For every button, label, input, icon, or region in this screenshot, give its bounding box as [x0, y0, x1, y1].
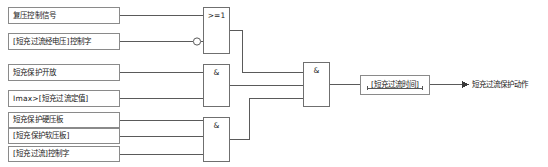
and-gate-current[interactable]: &	[203, 64, 230, 107]
input-box-soft-strap[interactable]: [短充保护软压板]	[8, 128, 120, 144]
timer-bar-icon	[367, 86, 423, 90]
or-gate-voltage[interactable]: >=1	[203, 7, 230, 54]
inverter-bubble-icon	[193, 38, 200, 45]
input-label: [短充保护软压板]	[13, 132, 70, 140]
input-box-overcurrent-voltage-ctrl-word[interactable]: [短充过流经电压]控制字	[8, 33, 120, 50]
input-label: [短充过流]控制字	[13, 150, 70, 158]
input-box-fuya-control-signal[interactable]: 复压控制信号	[8, 7, 120, 24]
input-label: 短充保护硬压板	[13, 116, 63, 124]
input-box-overcurrent-ctrl-word[interactable]: [短充过流]控制字	[8, 146, 120, 162]
input-box-imax-threshold[interactable]: Imax>[短充过流定值]	[8, 90, 120, 107]
wire-and-enable-to-final-and	[230, 99, 303, 140]
and-gate-final[interactable]: &	[303, 62, 330, 107]
input-label: [短充过流经电压]控制字	[13, 38, 91, 46]
gate-symbol: &	[314, 66, 320, 106]
and-gate-enable[interactable]: &	[203, 117, 230, 162]
input-label: Imax>[短充过流定值]	[13, 95, 88, 103]
gate-symbol: &	[214, 68, 220, 106]
input-label: 短充保护开放	[13, 69, 56, 77]
gate-symbol: >=1	[208, 11, 225, 53]
gate-symbol: &	[214, 121, 220, 161]
output-arrowhead	[462, 81, 470, 88]
input-box-hard-strap[interactable]: 短充保护硬压板	[8, 112, 120, 128]
timer-block-overcurrent-delay[interactable]: [短充过流时间]	[360, 75, 430, 95]
output-label-protection-action: 短充过流保护动作	[472, 81, 528, 89]
input-label: 复压控制信号	[13, 12, 56, 20]
wire-or-to-final-and	[230, 31, 303, 73]
logic-diagram-canvas: 复压控制信号 [短充过流经电压]控制字 短充保护开放 Imax>[短充过流定值]…	[0, 0, 548, 167]
input-box-protection-enabled[interactable]: 短充保护开放	[8, 64, 120, 81]
